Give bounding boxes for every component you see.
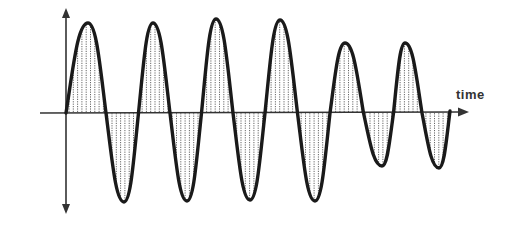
sine-wave xyxy=(66,19,450,202)
time-axis xyxy=(40,112,460,113)
time-axis-label: time xyxy=(456,87,485,102)
right-arrow-icon xyxy=(458,108,469,117)
down-arrow-icon xyxy=(62,204,70,214)
up-arrow-icon xyxy=(62,8,70,18)
waveform-diagram: time xyxy=(0,0,517,225)
